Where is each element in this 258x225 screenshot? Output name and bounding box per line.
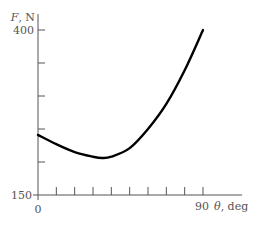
chart: F, N 400 150 0 90 θ, deg	[0, 0, 258, 225]
force-curve	[38, 30, 203, 158]
y-tick-label-150: 150	[11, 189, 32, 202]
y-tick-label-400: 400	[13, 24, 34, 37]
x-tick-label-90: 90	[195, 200, 209, 213]
y-axis-label: F, N	[10, 11, 36, 24]
x-axis-label: θ, deg	[214, 200, 248, 213]
axes	[33, 14, 242, 200]
y-ticks	[38, 30, 45, 162]
x-ticks	[56, 187, 203, 195]
x-tick-label-0: 0	[35, 203, 42, 216]
